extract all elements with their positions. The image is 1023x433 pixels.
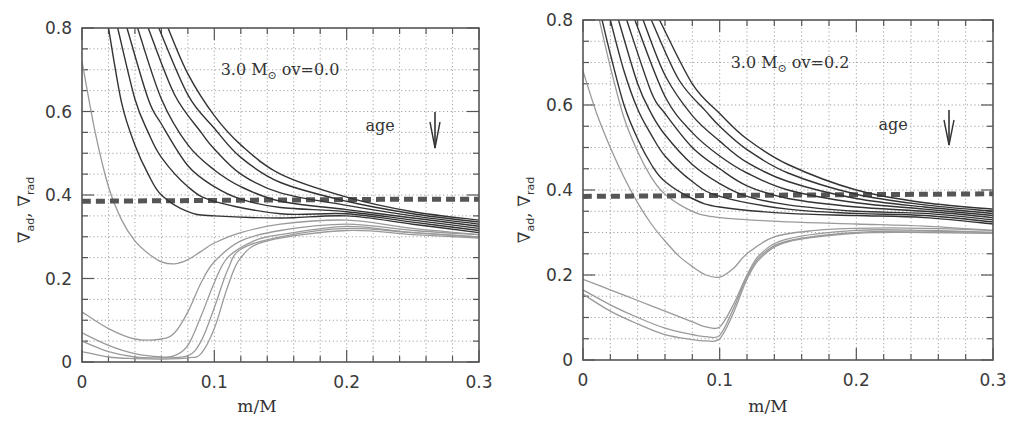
x-tick-label: 0 [578, 370, 589, 390]
x-tick-label: 0.2 [843, 370, 870, 390]
series-grad_rad_light_3 [583, 231, 993, 338]
x-tick-label: 0.1 [201, 372, 228, 392]
age-label: age [878, 115, 907, 134]
y-tick-label: 0.4 [546, 180, 573, 200]
y-tick-label: 0.6 [45, 102, 72, 122]
x-tick-label: 0.3 [465, 372, 492, 392]
series-grad_rad_4 [138, 28, 479, 226]
y-axis-title: ∇ad, ∇rad [514, 177, 537, 244]
series-grad_rad_light_2 [583, 230, 993, 329]
y-tick-label: 0.8 [546, 10, 573, 30]
x-tick-label: 0.1 [706, 370, 733, 390]
y-tick-label: 0.2 [546, 265, 573, 285]
x-tick-label: 0 [77, 372, 88, 392]
age-arrow-icon [430, 112, 440, 148]
x-tick-label: 0.3 [979, 370, 1006, 390]
left-chart-panel: 00.10.20.300.20.40.60.8m/M∇ad, ∇rad3.0 M… [14, 18, 493, 416]
y-tick-label: 0 [61, 352, 72, 372]
figure: 00.10.20.300.20.40.60.8m/M∇ad, ∇rad3.0 M… [0, 0, 1023, 433]
series-grad_rad_light_2 [82, 224, 479, 340]
age-label: age [365, 116, 394, 135]
series-grad_rad_7 [651, 20, 993, 211]
model-annotation: 3.0 M⊙ ov=0.2 [731, 53, 850, 75]
right-chart-panel: 00.10.20.300.20.40.60.8m/M∇ad, ∇rad3.0 M… [514, 10, 1007, 416]
series-grad_rad_light_3 [82, 226, 479, 357]
x-axis-title: m/M [237, 396, 276, 416]
series-grad_rad_light_4 [583, 232, 993, 341]
x-axis-title: m/M [748, 396, 787, 416]
age-arrow-icon [944, 110, 954, 145]
y-tick-label: 0.8 [45, 18, 72, 38]
y-axis-title: ∇ad, ∇rad [14, 177, 37, 244]
series-grad_ad [583, 194, 993, 197]
model-annotation: 3.0 M⊙ ov=0.0 [221, 60, 340, 82]
y-tick-label: 0.4 [45, 185, 72, 205]
y-tick-label: 0.2 [45, 269, 72, 289]
y-tick-label: 0 [562, 350, 573, 370]
y-tick-label: 0.6 [546, 95, 573, 115]
x-tick-label: 0.2 [333, 372, 360, 392]
series-grad_rad_5 [635, 20, 993, 216]
